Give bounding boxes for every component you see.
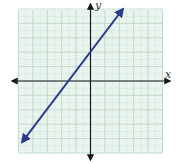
- coordinate-plane: x y: [0, 0, 176, 163]
- y-axis-label: y: [94, 0, 102, 12]
- x-axis-label: x: [165, 68, 172, 81]
